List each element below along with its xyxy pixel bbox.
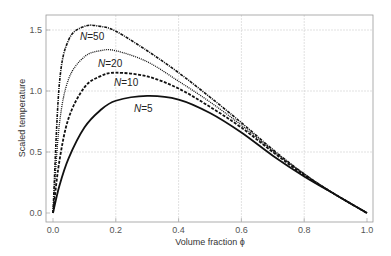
label-n20: N=20 [98, 58, 123, 69]
label-n50: N=50 [80, 31, 105, 42]
svg-text:1.0: 1.0 [361, 225, 374, 235]
svg-text:0.5: 0.5 [29, 147, 42, 157]
label-n5: N=5 [134, 103, 153, 114]
series-n20 [53, 50, 367, 213]
plot-frame [46, 15, 373, 222]
series-n50 [53, 25, 367, 213]
svg-text:0.0: 0.0 [47, 225, 60, 235]
label-n10: N=10 [114, 77, 139, 88]
series-lines [53, 25, 367, 213]
svg-text:1.0: 1.0 [29, 86, 42, 96]
axis-ticks: 0.00.20.40.60.81.00.00.51.01.5 [29, 25, 373, 235]
y-axis-label: Scaled temperature [17, 79, 27, 158]
series-n10 [53, 73, 367, 213]
grid [46, 15, 373, 222]
svg-text:0.8: 0.8 [298, 225, 311, 235]
svg-text:0.0: 0.0 [29, 208, 42, 218]
x-axis-label: Volume fraction ϕ [175, 237, 245, 247]
series-n5 [53, 96, 367, 213]
svg-text:0.6: 0.6 [235, 225, 248, 235]
svg-text:0.2: 0.2 [110, 225, 123, 235]
chart: 0.00.20.40.60.81.00.00.51.01.5 N=50 N=20… [0, 0, 391, 256]
svg-text:1.5: 1.5 [29, 25, 42, 35]
svg-text:0.4: 0.4 [172, 225, 185, 235]
